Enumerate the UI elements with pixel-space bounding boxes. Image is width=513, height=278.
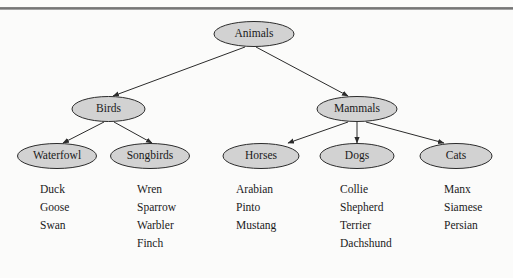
node-dogs[interactable]: Dogs [320, 144, 394, 169]
tree-diagram: Animals Birds Mammals Waterfowl Songbird… [0, 0, 513, 278]
edge-birds-songbirds [114, 122, 152, 143]
diagram-page: Animals Birds Mammals Waterfowl Songbird… [0, 0, 513, 278]
list-item: Swan [40, 216, 69, 234]
node-mammals-label: Mammals [334, 102, 381, 114]
list-item: Manx [444, 180, 482, 198]
node-horses-label: Horses [245, 149, 277, 161]
list-item: Sparrow [137, 198, 176, 216]
node-songbirds-label: Songbirds [127, 149, 174, 162]
node-songbirds[interactable]: Songbirds [111, 144, 190, 169]
edge-animals-mammals [256, 47, 348, 96]
list-item: Arabian [236, 180, 276, 198]
list-item: Terrier [340, 216, 392, 234]
edge-birds-waterfowl [63, 122, 104, 143]
list-item: Mustang [236, 216, 276, 234]
list-item: Duck [40, 180, 69, 198]
edge-mammals-cats [366, 122, 444, 143]
edge-mammals-horses [288, 122, 348, 143]
list-item: Shepherd [340, 198, 392, 216]
dogs-example-list: Collie Shepherd Terrier Dachshund [340, 180, 392, 252]
node-waterfowl[interactable]: Waterfowl [18, 144, 97, 169]
list-item: Warbler [137, 216, 176, 234]
node-animals[interactable]: Animals [214, 22, 294, 47]
node-birds-label: Birds [96, 102, 121, 114]
cats-example-list: Manx Siamese Persian [444, 180, 482, 234]
node-dogs-label: Dogs [345, 149, 370, 162]
list-item: Dachshund [340, 234, 392, 252]
node-waterfowl-label: Waterfowl [33, 149, 81, 161]
list-item: Goose [40, 198, 69, 216]
horses-example-list: Arabian Pinto Mustang [236, 180, 276, 234]
list-item: Collie [340, 180, 392, 198]
waterfowl-example-list: Duck Goose Swan [40, 180, 69, 234]
node-animals-label: Animals [235, 27, 274, 39]
list-item: Wren [137, 180, 176, 198]
list-item: Finch [137, 234, 176, 252]
list-item: Pinto [236, 198, 276, 216]
node-mammals[interactable]: Mammals [317, 97, 397, 122]
list-item: Persian [444, 216, 482, 234]
node-birds[interactable]: Birds [72, 97, 145, 122]
node-horses[interactable]: Horses [223, 144, 299, 169]
songbirds-example-list: Wren Sparrow Warbler Finch [137, 180, 176, 252]
node-cats-label: Cats [446, 149, 467, 161]
node-cats[interactable]: Cats [420, 144, 492, 169]
edge-animals-birds [113, 47, 245, 96]
list-item: Siamese [444, 198, 482, 216]
